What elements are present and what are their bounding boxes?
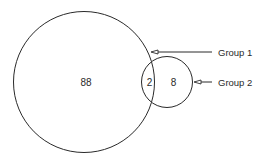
venn-diagram: 88 2 8 Group 1 Group 2 [0, 0, 270, 157]
intersection-count: 2 [147, 77, 153, 88]
group-2-label: Group 2 [218, 77, 252, 88]
group-1-label: Group 1 [218, 47, 252, 58]
group-2-only-count: 8 [171, 77, 177, 88]
group-2-pointer-arrow [194, 80, 212, 84]
group-1-only-count: 88 [80, 77, 92, 88]
group-1-pointer-arrow [151, 50, 212, 54]
